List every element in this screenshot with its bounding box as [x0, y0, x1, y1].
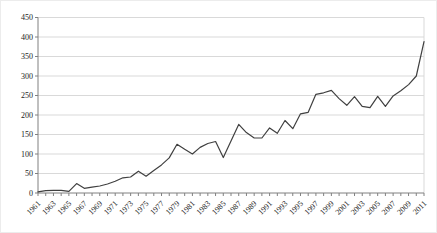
x-axis-tick-label: 2011: [411, 199, 428, 216]
x-axis-tick-label: 1965: [56, 199, 74, 217]
x-axis-tick-label: 1993: [272, 199, 290, 217]
x-axis-tick-label: 1961: [25, 199, 43, 217]
x-axis-tick-label: 1989: [241, 199, 259, 217]
x-axis-tick-label: 2003: [349, 199, 367, 217]
y-axis-tick-label: 50: [25, 169, 33, 178]
data-series-line: [38, 42, 424, 192]
x-axis-tick-label: 1971: [102, 199, 120, 217]
x-axis-tick-label: 1979: [164, 199, 182, 217]
x-axis-tick-label: 1963: [40, 199, 58, 217]
x-axis-tick-label: 1967: [71, 199, 89, 217]
x-axis-tick-label: 1973: [117, 199, 135, 217]
x-axis-tick-label: 2007: [380, 199, 398, 217]
y-axis-tick-label: 150: [21, 130, 33, 139]
x-axis-tick-label: 2009: [395, 199, 413, 217]
y-axis-tick-label: 400: [21, 33, 33, 42]
x-axis-tick-label: 1977: [148, 199, 166, 217]
x-axis-tick-label: 2005: [364, 199, 382, 217]
x-axis-tick-label: 1995: [287, 199, 305, 217]
y-axis-tick-label: 250: [21, 91, 33, 100]
x-axis-tick-label: 2001: [334, 199, 352, 217]
x-axis-tick-label: 1981: [179, 199, 197, 217]
y-axis-tick-label: 450: [21, 13, 33, 22]
x-axis-tick-label: 1987: [225, 199, 243, 217]
x-axis-tick-label: 1985: [210, 199, 228, 217]
y-axis-tick-label: 350: [21, 52, 33, 61]
y-axis-tick-label: 200: [21, 111, 33, 120]
y-axis-tick-label: 300: [21, 72, 33, 81]
y-axis-tick-label: 0: [29, 189, 33, 198]
chart-figure: 0501001502002503003504004501961196319651…: [0, 0, 437, 233]
x-axis-tick-label: 1969: [86, 199, 104, 217]
y-axis-tick-label: 100: [21, 150, 33, 159]
line-chart-canvas: 0501001502002503003504004501961196319651…: [1, 1, 437, 233]
x-axis-tick-label: 1999: [318, 199, 336, 217]
x-axis-tick-label: 1975: [133, 199, 151, 217]
x-axis-tick-label: 1983: [195, 199, 213, 217]
x-axis-tick-label: 1991: [256, 199, 274, 217]
x-axis-tick-label: 1997: [303, 199, 321, 217]
